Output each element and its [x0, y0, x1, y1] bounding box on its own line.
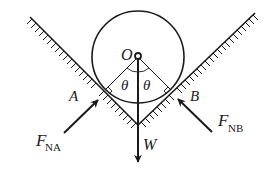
left-wall — [27, 17, 138, 128]
label-theta-left: θ — [121, 77, 129, 93]
label-point-a: A — [68, 88, 79, 104]
center-point — [135, 53, 141, 59]
right-wall-hatching — [141, 15, 258, 127]
right-wall — [138, 13, 258, 127]
normal-force-a-arrow — [64, 100, 98, 133]
svg-text:NA: NA — [45, 141, 61, 153]
label-weight: W — [143, 136, 158, 153]
left-wall-hatching — [27, 19, 136, 128]
label-point-b: B — [190, 88, 199, 104]
svg-text:NB: NB — [228, 122, 243, 134]
label-force-nb: F NB — [217, 111, 243, 134]
angle-arc-left — [127, 68, 138, 72]
label-theta-right: θ — [143, 77, 151, 93]
label-force-na: F NA — [35, 131, 61, 153]
force-diagram: O A B θ θ W F NA F NB — [0, 0, 273, 169]
label-center-o: O — [121, 46, 133, 63]
angle-arc-right — [138, 68, 149, 72]
